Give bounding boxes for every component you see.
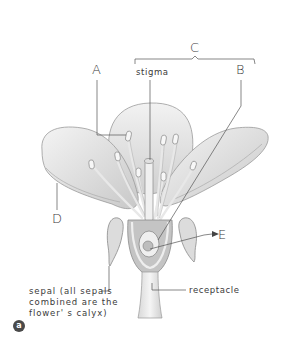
anther	[161, 172, 166, 181]
label-a: A	[92, 63, 101, 76]
stigma-tip	[145, 159, 154, 164]
sepal-left	[107, 218, 123, 266]
label-receptacle: receptacle	[189, 286, 240, 295]
label-d: D	[52, 212, 62, 225]
sepal-right	[179, 218, 197, 262]
panel-badge: a	[13, 320, 25, 332]
style	[145, 160, 153, 222]
anther	[88, 160, 94, 170]
label-b: B	[236, 63, 245, 76]
label-c: C	[190, 41, 199, 54]
label-e: E	[218, 228, 226, 241]
label-sepal: sepal (all sepals combined are the flowe…	[29, 286, 118, 319]
label-stigma: stigma	[136, 68, 169, 77]
stem	[138, 272, 162, 318]
ovule	[143, 241, 153, 251]
anther	[136, 168, 141, 177]
